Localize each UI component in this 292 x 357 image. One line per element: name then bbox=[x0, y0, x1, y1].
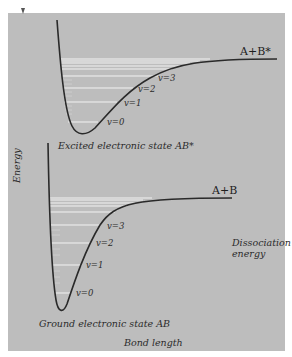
excited-level-v0-label: v=0 bbox=[107, 117, 125, 127]
excited-asymptote-label: A+B* bbox=[239, 45, 271, 58]
potential-energy-diagram: A+B* v=3 v=2 v=1 v=0 Excited electronic … bbox=[0, 0, 292, 357]
ground-state-curve bbox=[48, 143, 232, 310]
dissociation-energy-label-line1: Dissociation bbox=[231, 237, 291, 248]
ground-level-v3-label: v=3 bbox=[107, 221, 124, 231]
x-axis-label: Bond length bbox=[123, 337, 183, 348]
excited-vibrational-levels bbox=[60, 59, 210, 122]
excited-level-v3-label: v=3 bbox=[158, 73, 175, 83]
excited-state-label: Excited electronic state AB* bbox=[57, 140, 194, 151]
excited-level-v2-label: v=2 bbox=[138, 84, 155, 94]
ground-state-label: Ground electronic state AB bbox=[39, 318, 170, 329]
dissociation-energy-label-line2: energy bbox=[232, 248, 266, 259]
energy-axis-arrow-icon bbox=[21, 8, 25, 14]
ground-level-v2-label: v=2 bbox=[96, 238, 113, 248]
y-axis-label: Energy bbox=[11, 148, 22, 184]
ground-asymptote-label: A+B bbox=[211, 184, 237, 197]
ground-level-v1-label: v=1 bbox=[86, 260, 103, 270]
excited-level-v1-label: v=1 bbox=[124, 98, 141, 108]
ground-level-v0-label: v=0 bbox=[76, 288, 94, 298]
